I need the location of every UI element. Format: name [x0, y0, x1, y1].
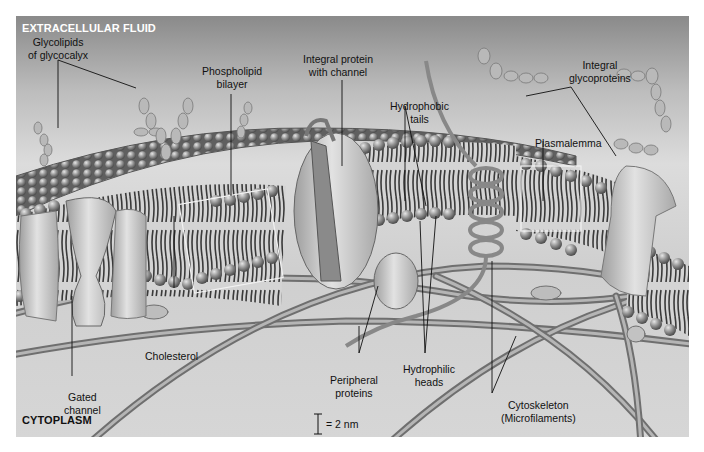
scale-bar-label: = 2 nm — [326, 418, 358, 430]
membrane-diagram: EXTRACELLULAR FLUID CYTOPLASM Glycolipid… — [16, 16, 689, 437]
label-cholesterol: Cholesterol — [145, 350, 198, 363]
extracellular-fluid-label: EXTRACELLULAR FLUID — [22, 22, 156, 34]
label-phospholipid-bilayer: Phospholipid bilayer — [202, 65, 262, 91]
label-hydrophilic-heads: Hydrophilic heads — [403, 363, 455, 389]
label-hydrophobic-tails: Hydrophobic tails — [390, 100, 449, 126]
label-plasmalemma: Plasmalemma — [535, 137, 602, 150]
label-peripheral-proteins: Peripheral proteins — [330, 374, 378, 400]
label-integral-protein-channel: Integral protein with channel — [303, 53, 373, 79]
label-gated-channel: Gated channel — [64, 391, 101, 417]
label-glycolipids: Glycolipids of glycocalyx — [28, 36, 88, 62]
scale-bar — [314, 414, 322, 434]
label-cytoskeleton: Cytoskeleton (Microfilaments) — [501, 399, 576, 425]
label-integral-glycoproteins: Integral glycoproteins — [569, 59, 631, 85]
gated-channel-protein — [19, 198, 146, 326]
